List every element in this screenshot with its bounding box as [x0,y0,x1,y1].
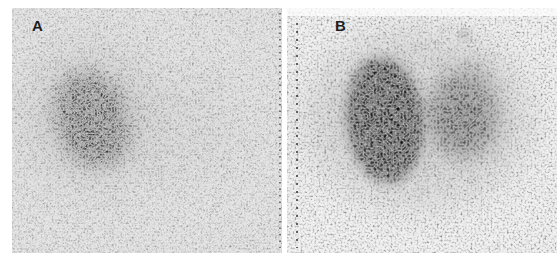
scan-figure: A [0,0,559,264]
scan-image-b [287,8,557,253]
panel-b: B [287,8,557,253]
panel-label-b: B [335,18,346,33]
panel-a: A [12,8,282,253]
scan-image-a [12,8,282,253]
panel-label-a: A [32,18,43,33]
